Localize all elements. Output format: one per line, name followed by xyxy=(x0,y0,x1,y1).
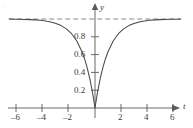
y-tick-label-0-2: 0.2 xyxy=(74,86,85,95)
y-axis-label: y xyxy=(100,3,104,12)
x-axis-label: t xyxy=(183,102,186,111)
x-tick-label-4: 4 xyxy=(144,113,149,122)
y-tick-label-0-4: 0.4 xyxy=(74,68,85,77)
x-tick-label-minus4: –4 xyxy=(37,113,46,122)
y-tick-label-0-8: 0.8 xyxy=(74,32,85,41)
x-tick-label-2: 2 xyxy=(118,113,123,122)
x-axis xyxy=(8,104,180,112)
plot-canvas xyxy=(0,0,193,128)
figure-container: . xyxy=(0,0,193,128)
x-tick-label-6: 6 xyxy=(170,113,175,122)
y-axis xyxy=(91,3,99,118)
x-tick-label-minus6: –6 xyxy=(11,113,20,122)
x-tick-label-minus2: –2 xyxy=(63,113,72,122)
y-tick-label-0-6: 0.6 xyxy=(74,50,85,59)
